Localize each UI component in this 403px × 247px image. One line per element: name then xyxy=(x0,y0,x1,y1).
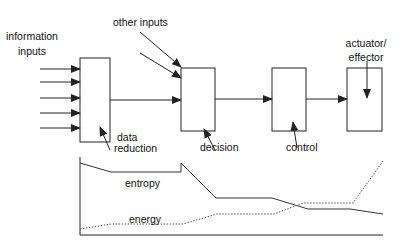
other-inputs-label: other inputs xyxy=(113,17,168,28)
decision-box xyxy=(181,68,215,131)
information-inputs-line2: inputs xyxy=(1,46,63,57)
actuator-box xyxy=(347,68,382,131)
data-reduction-label: data reduction xyxy=(114,132,157,154)
control-label: control xyxy=(286,142,318,153)
entropy-energy-chart xyxy=(80,157,383,235)
entropy-label: entropy xyxy=(125,178,160,189)
decision-label: decision xyxy=(200,142,239,153)
data-reduction-line2: reduction xyxy=(114,143,157,154)
information-inputs-label: information inputs xyxy=(1,31,63,57)
energy-line xyxy=(80,161,383,229)
actuator-line2: effector xyxy=(339,52,393,63)
control-box xyxy=(272,68,306,131)
information-inputs-line1: information xyxy=(1,31,63,42)
information-input-arrows xyxy=(40,69,80,128)
actuator-line1: actuator/ xyxy=(339,38,393,49)
energy-label: energy xyxy=(129,214,161,225)
data-reduction-box xyxy=(80,58,110,142)
actuator-effector-label: actuator/ effector xyxy=(339,38,393,63)
